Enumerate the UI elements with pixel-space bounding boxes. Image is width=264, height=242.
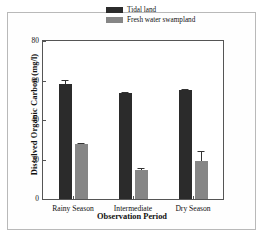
- error-bar-cap: [198, 151, 205, 152]
- plot-area: 020406080Rainy SeasonIntermediateDry Sea…: [42, 40, 224, 200]
- y-tick-label: 0: [23, 195, 39, 202]
- y-tick-mark: [43, 160, 46, 161]
- legend-label: Fresh water swampland: [127, 16, 195, 24]
- legend-label: Tidal land: [127, 6, 156, 14]
- legend-swatch-icon: [106, 17, 123, 23]
- bar: [179, 90, 192, 199]
- error-bar: [201, 151, 202, 161]
- error-bar-cap: [78, 143, 85, 144]
- y-tick-label: 20: [23, 156, 39, 163]
- chart-legend: Tidal land Fresh water swampland: [106, 6, 195, 26]
- bar: [135, 170, 148, 199]
- y-tick-mark: [43, 199, 46, 200]
- x-axis-title: Observation Period: [42, 212, 222, 221]
- y-tick-label: 60: [23, 77, 39, 84]
- y-tick-label: 80: [23, 37, 39, 44]
- legend-item-tidal-land: Tidal land: [106, 6, 195, 14]
- error-bar-cap: [138, 168, 145, 169]
- bar: [59, 84, 72, 199]
- error-bar-cap: [182, 89, 189, 90]
- error-bar-cap: [122, 92, 129, 93]
- legend-swatch-icon: [106, 7, 123, 13]
- error-bar-cap: [62, 80, 69, 81]
- legend-item-fresh-water-swampland: Fresh water swampland: [106, 16, 195, 24]
- bar: [119, 93, 132, 199]
- y-tick-mark: [43, 41, 46, 42]
- y-tick-label: 40: [23, 116, 39, 123]
- chart-figure: Dissolved Organic Carbon (mg/l) 02040608…: [0, 0, 264, 242]
- bar: [195, 161, 208, 199]
- y-tick-mark: [43, 120, 46, 121]
- bar: [75, 144, 88, 199]
- y-tick-mark: [43, 81, 46, 82]
